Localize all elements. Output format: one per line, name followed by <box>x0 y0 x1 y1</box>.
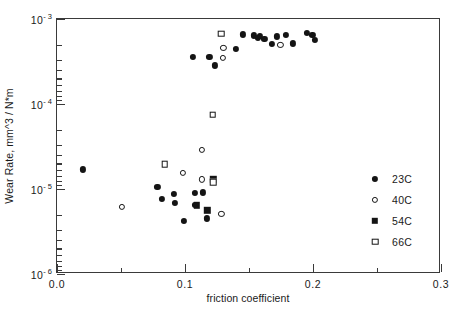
x-tick-label: 0.2 <box>305 278 321 290</box>
data-point <box>210 179 217 186</box>
x-tick-label: 0.1 <box>177 278 193 290</box>
x-tick-label: 0.0 <box>49 278 65 290</box>
legend-swatch <box>368 214 382 228</box>
data-point <box>218 30 225 37</box>
legend-swatch <box>368 172 382 186</box>
x-tick-label: 0.3 <box>433 278 449 290</box>
y-tick-label: 10- 5 <box>31 182 52 196</box>
legend-swatch <box>368 193 382 207</box>
legend-item-40C: 40C <box>368 189 432 210</box>
legend-swatch <box>368 235 382 249</box>
y-axis-title: Wear Rate, mm^3 / N*m <box>2 18 16 273</box>
y-tick-label: 10- 4 <box>31 97 52 111</box>
legend-item-23C: 23C <box>368 168 432 189</box>
legend-label: 40C <box>392 194 412 206</box>
marker-open-square <box>372 238 379 245</box>
y-axis-title-text: Wear Rate, mm^3 / N*m <box>3 88 15 203</box>
x-axis-title: friction coefficient <box>56 292 440 304</box>
legend-label: 23C <box>392 173 412 185</box>
data-point <box>161 161 168 168</box>
wear-rate-scatter-figure: Wear Rate, mm^3 / N*m 10- 310- 410- 510-… <box>0 0 472 311</box>
legend-item-66C: 66C <box>368 231 432 252</box>
legend: 23C40C54C66C <box>368 168 432 252</box>
marker-filled-square <box>372 217 378 223</box>
marker-open-circle <box>372 196 378 202</box>
y-tick-major: 10- 6 <box>57 274 65 275</box>
marker-filled-circle <box>372 175 378 181</box>
x-tick-major: 0.3 <box>441 264 442 272</box>
legend-label: 66C <box>392 236 412 248</box>
data-point <box>209 111 216 118</box>
legend-item-54C: 54C <box>368 210 432 231</box>
y-tick-label: 10- 3 <box>31 12 52 26</box>
legend-label: 54C <box>392 215 412 227</box>
